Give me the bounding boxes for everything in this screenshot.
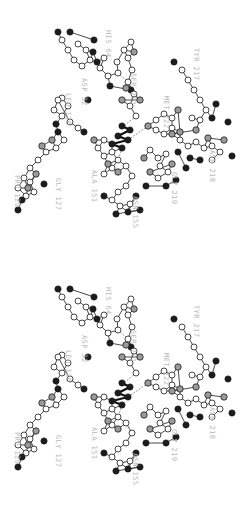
atom-open — [65, 47, 71, 53]
atom-gray — [91, 137, 97, 143]
molecule-stage-left: HIS 64ASP 32SER 221LEU 126TYR 217MET 222… — [0, 0, 247, 257]
atom-open — [128, 296, 134, 302]
atom-open — [101, 137, 107, 143]
atom-dark — [67, 29, 73, 35]
atom-dark — [213, 101, 219, 107]
atom-gray — [221, 137, 227, 143]
atom-open — [109, 454, 115, 460]
atom-gray — [193, 384, 199, 390]
atom-open — [163, 408, 169, 414]
atom-open — [189, 372, 195, 378]
atom-open — [101, 410, 107, 416]
atom-open — [59, 37, 65, 43]
residue-label-gly-219: GLY 219 — [171, 429, 178, 461]
atom-open — [95, 402, 101, 408]
atom-open — [105, 330, 111, 336]
atom-open — [121, 47, 127, 53]
atom-gray — [115, 169, 121, 175]
atom-open — [51, 364, 57, 370]
atom-open — [87, 314, 93, 320]
atom-dark — [125, 394, 131, 400]
residue-label-pro-129: PRO 129 — [14, 175, 21, 207]
atom-open — [115, 189, 121, 195]
stereo-figure: HIS 64ASP 32SER 221LEU 126TYR 217MET 222… — [0, 0, 247, 514]
atom-open — [155, 412, 161, 418]
residue-label-asn-218: ASN 218 — [209, 150, 216, 182]
atom-open — [155, 155, 161, 161]
atom-open — [53, 145, 59, 151]
atom-gray — [91, 394, 97, 400]
atom-dark — [91, 37, 97, 43]
atom-open — [75, 125, 81, 131]
atom-open — [71, 57, 77, 63]
atom-open — [61, 137, 67, 143]
bond — [70, 32, 94, 40]
atom-open — [101, 171, 107, 177]
atom-gray — [175, 107, 181, 113]
atom-open — [191, 344, 197, 350]
atom-open — [153, 127, 159, 133]
residue-label-tyr-217: TYR 217 — [193, 305, 200, 337]
atom-dark — [127, 384, 133, 390]
atom-dark — [127, 127, 133, 133]
atom-dark — [101, 450, 107, 456]
atom-gray — [147, 426, 153, 432]
atom-open — [121, 304, 127, 310]
atom-gray — [169, 388, 175, 394]
atom-gray — [147, 169, 153, 175]
atom-open — [209, 143, 215, 149]
atom-open — [155, 175, 161, 181]
atom-open — [185, 143, 191, 149]
atom-gray — [145, 380, 151, 386]
atom-dark — [109, 398, 115, 404]
atom-open — [97, 65, 103, 71]
atom-dark — [81, 386, 87, 392]
atom-open — [95, 145, 101, 151]
atom-open — [79, 320, 85, 326]
atom-dark — [197, 157, 203, 163]
atom-gray — [25, 442, 31, 448]
atom-open — [55, 354, 61, 360]
atom-open — [161, 131, 167, 137]
atom-gray — [49, 394, 55, 400]
atom-gray — [169, 161, 175, 167]
residue-label-asn-155: ASN 155 — [132, 453, 139, 485]
bond — [70, 289, 94, 297]
atom-open — [115, 327, 121, 333]
atom-open — [31, 189, 37, 195]
atom-open — [59, 294, 65, 300]
molecule-drawing-left — [0, 0, 247, 257]
atom-gray — [131, 306, 137, 312]
atom-open — [197, 374, 203, 380]
atom-dark — [119, 145, 125, 151]
atom-dark — [163, 183, 169, 189]
atom-dark — [115, 390, 121, 396]
atom-open — [217, 406, 223, 412]
atom-open — [133, 113, 139, 119]
atom-open — [155, 432, 161, 438]
atom-dark — [183, 165, 189, 171]
atom-open — [53, 402, 59, 408]
atom-dark — [107, 83, 113, 89]
atom-dark — [55, 29, 61, 35]
residue-label-leu-126: LEU 126 — [65, 93, 72, 125]
atom-dark — [41, 438, 47, 444]
residue-label-pro-129: PRO 129 — [14, 432, 21, 464]
atom-open — [114, 316, 120, 322]
atom-open — [123, 183, 129, 189]
atom-open — [157, 163, 163, 169]
atom-open — [128, 39, 134, 45]
atom-gray — [205, 135, 211, 141]
atom-dark — [225, 376, 231, 382]
atom-dark — [209, 115, 215, 121]
atom-open — [133, 370, 139, 376]
atom-open — [115, 446, 121, 452]
atom-gray — [175, 364, 181, 370]
residue-label-met-222: MET 222 — [163, 96, 170, 128]
atom-open — [75, 41, 81, 47]
atom-open — [61, 394, 67, 400]
molecule-stage-right: HIS 64ASP 32SER 221LEU 126TYR 217MET 222… — [0, 257, 247, 514]
atom-open — [109, 149, 115, 155]
atom-open — [97, 322, 103, 328]
atom-dark — [187, 412, 193, 418]
